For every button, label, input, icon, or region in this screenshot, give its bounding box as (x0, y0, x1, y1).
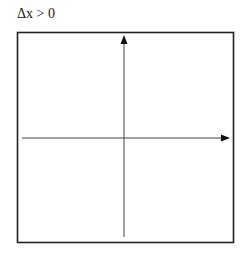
y-axis-arrow-icon (121, 35, 128, 44)
x-axis-arrow-icon (221, 135, 230, 142)
axes-diagram (0, 0, 246, 260)
